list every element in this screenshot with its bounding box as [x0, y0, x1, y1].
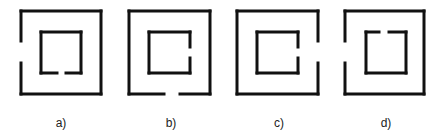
panel-b-figure: [129, 11, 210, 94]
panel-c-figure: [237, 11, 318, 94]
panel-b-label: b): [166, 116, 177, 130]
panel-a-label: a): [56, 116, 67, 130]
panel-d-label: d): [381, 116, 392, 130]
panel-d-figure: [345, 11, 424, 94]
panel-a-figure: [21, 11, 101, 94]
panel-c-label: c): [274, 116, 284, 130]
